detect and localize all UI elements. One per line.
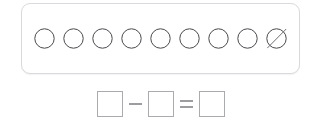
circle-counter-3[interactable] <box>92 28 113 49</box>
circle-counter-6[interactable] <box>179 28 200 49</box>
subtrahend-answer-box[interactable] <box>148 91 174 117</box>
circle-counter-icon <box>34 28 55 49</box>
counters-row <box>22 4 299 73</box>
circle-counter-icon <box>208 28 229 49</box>
circle-counter-4[interactable] <box>121 28 142 49</box>
circle-counter-7[interactable] <box>208 28 229 49</box>
circle-counter-icon <box>92 28 113 49</box>
equals-symbol: = <box>186 104 187 105</box>
circle-counter-icon <box>121 28 142 49</box>
minus-symbol: − <box>135 104 136 105</box>
result-answer-box[interactable] <box>199 91 225 117</box>
circle-counter-8[interactable] <box>237 28 258 49</box>
subtraction-equation: − = <box>0 85 321 123</box>
circle-counter-1[interactable] <box>34 28 55 49</box>
circle-counter-icon <box>63 28 84 49</box>
minuend-answer-box[interactable] <box>97 91 123 117</box>
worksheet: − = <box>0 0 321 126</box>
circle-counter-icon <box>150 28 171 49</box>
circle-counter-icon <box>237 28 258 49</box>
circle-counter-5[interactable] <box>150 28 171 49</box>
circle-counter-icon <box>179 28 200 49</box>
circle-counter-2[interactable] <box>63 28 84 49</box>
circle-counter-crossed-icon <box>266 28 287 49</box>
minus-operator: − <box>123 91 148 117</box>
circle-counter-9-crossed[interactable] <box>266 28 287 49</box>
counters-panel <box>21 3 300 74</box>
equals-operator: = <box>174 91 199 117</box>
